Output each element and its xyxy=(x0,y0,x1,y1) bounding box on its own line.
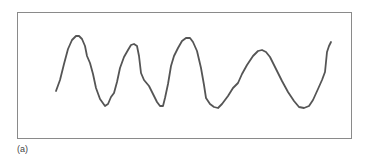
waveform-curve xyxy=(0,0,371,161)
waveform-figure: (a) xyxy=(0,0,371,161)
figure-label: (a) xyxy=(17,144,28,154)
